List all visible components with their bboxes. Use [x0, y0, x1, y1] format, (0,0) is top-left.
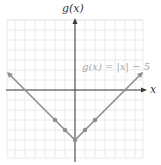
y-axis-arrow-icon: [73, 18, 78, 24]
data-point: [73, 138, 77, 142]
y-axis-label: g(x): [62, 2, 84, 15]
data-point: [63, 128, 67, 132]
data-point: [93, 118, 97, 122]
data-point: [53, 118, 57, 122]
equation-label: g(x) = |x| − 5: [82, 61, 150, 73]
chart: g(x) x g(x) = |x| − 5: [0, 0, 161, 165]
data-point: [83, 128, 87, 132]
x-axis-label: x: [150, 83, 157, 96]
x-axis-arrow-icon: [141, 88, 147, 93]
